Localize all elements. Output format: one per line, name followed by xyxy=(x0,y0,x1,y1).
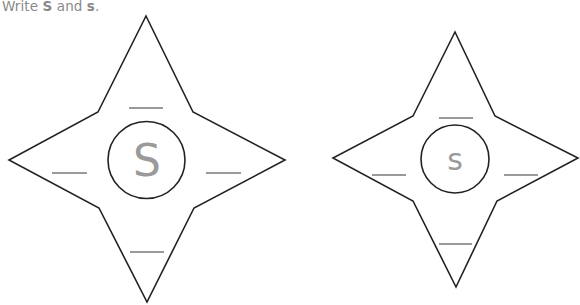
uppercase-star: S xyxy=(9,16,285,302)
lowercase-star: s xyxy=(333,32,578,287)
guide-letter: S xyxy=(133,135,161,186)
worksheet-canvas: S s xyxy=(0,0,580,305)
guide-letter: s xyxy=(447,142,463,177)
